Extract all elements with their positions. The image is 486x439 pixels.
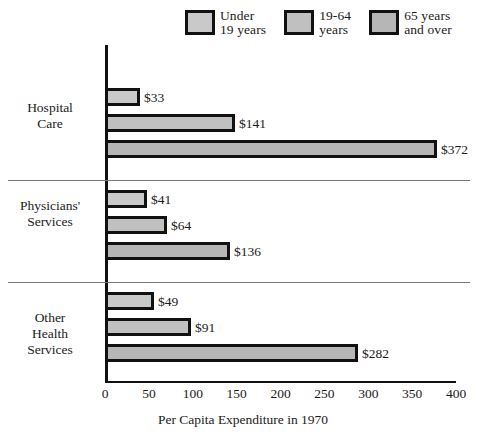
bar-value-label: $282	[362, 345, 389, 363]
bar-value-label: $64	[171, 217, 191, 235]
bar-value-label: $33	[144, 89, 164, 107]
x-axis-tick-label: 400	[446, 386, 466, 402]
category-label: Other Health Services	[0, 310, 100, 358]
x-axis-tick-label: 150	[227, 386, 247, 402]
legend-item-under-19-years: Under 19 years	[185, 9, 266, 36]
x-axis-tick-label: 100	[183, 386, 203, 402]
x-axis-tick-label: 350	[402, 386, 422, 402]
legend-item-65-years-and-over: 65 years and over	[369, 9, 452, 36]
bar	[105, 318, 191, 336]
legend-label: 65 years and over	[404, 9, 452, 36]
x-axis-tick-label: 0	[102, 386, 109, 402]
legend-item-19-64-years: 19-64 years	[284, 9, 351, 36]
bar-value-label: $372	[441, 141, 468, 159]
x-axis-title: Per Capita Expenditure in 1970	[0, 412, 486, 428]
bar	[105, 344, 358, 362]
legend-swatch-icon	[284, 10, 314, 35]
bar	[105, 242, 230, 260]
bar	[105, 140, 437, 158]
bar	[105, 190, 147, 208]
bar-value-label: $136	[234, 243, 261, 261]
bar-value-label: $91	[195, 319, 215, 337]
bar	[105, 114, 235, 132]
x-axis-tick-label: 300	[358, 386, 378, 402]
legend-swatch-icon	[185, 10, 215, 35]
bar	[105, 292, 154, 310]
bar-value-label: $49	[158, 293, 178, 311]
bar	[105, 88, 140, 106]
bar-value-label: $41	[151, 191, 171, 209]
category-label: Hospital Care	[0, 100, 100, 132]
legend-label: Under 19 years	[220, 9, 266, 36]
bar	[105, 216, 167, 234]
x-axis-tick-label: 50	[142, 386, 156, 402]
bar-chart: Under 19 years 19-64 years 65 years and …	[0, 0, 486, 439]
bar-value-label: $141	[239, 115, 266, 133]
legend-swatch-icon	[369, 10, 399, 35]
x-axis-tick-label: 200	[270, 386, 290, 402]
group-separator	[8, 180, 470, 181]
chart-legend: Under 19 years 19-64 years 65 years and …	[185, 9, 452, 36]
x-axis-line	[105, 381, 456, 383]
category-label: Physicians' Services	[0, 198, 100, 230]
x-axis-tick-label: 250	[314, 386, 334, 402]
group-separator	[8, 282, 470, 283]
legend-label: 19-64 years	[319, 9, 351, 36]
